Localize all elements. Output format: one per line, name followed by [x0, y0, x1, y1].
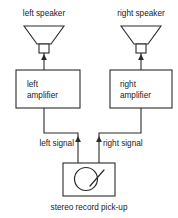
right-amplifier-label-line2: amplifier [120, 91, 151, 100]
right-signal-label: right signal [103, 139, 143, 148]
left-amplifier-label-line2: amplifier [27, 91, 58, 100]
right-signal-wire-group: right signal [96, 108, 143, 163]
left-signal-wire [44, 108, 78, 163]
left-signal-arrowhead-icon [75, 136, 81, 142]
right-speaker-label: right speaker [117, 9, 165, 18]
record-pickup-caption: stereo record pick-up [51, 203, 128, 212]
left-speaker-group: left speaker [23, 9, 66, 70]
left-amplifier-label-line1: left [27, 80, 39, 89]
left-speaker-arrowhead-icon [41, 54, 47, 60]
right-amplifier-label-line1: right [120, 80, 137, 89]
left-speaker-label: left speaker [23, 9, 66, 18]
left-amplifier-group: left amplifier [16, 70, 80, 108]
right-signal-wire [99, 108, 141, 163]
left-signal-label: left signal [39, 139, 74, 148]
right-signal-arrowhead-icon [96, 136, 102, 142]
left-signal-wire-group: left signal [39, 108, 80, 163]
right-amplifier-box [110, 70, 172, 108]
right-speaker-horn-icon [121, 26, 161, 44]
diagram-canvas: left speaker right speaker left amplifie… [0, 0, 178, 218]
right-amplifier-group: right amplifier [110, 70, 172, 108]
left-speaker-body-icon [39, 44, 49, 53]
left-amplifier-box [16, 70, 80, 108]
right-speaker-arrowhead-icon [138, 54, 144, 60]
left-speaker-horn-icon [24, 26, 64, 44]
right-speaker-body-icon [136, 44, 146, 53]
right-speaker-group: right speaker [117, 9, 165, 70]
record-pickup-group: stereo record pick-up [51, 163, 128, 212]
stereo-system-diagram: left speaker right speaker left amplifie… [0, 0, 178, 218]
